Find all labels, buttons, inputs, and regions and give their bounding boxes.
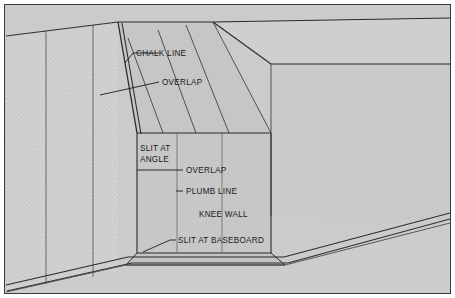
label-overlap-ceiling: OVERLAP (162, 78, 203, 87)
label-slit-at-baseboard: SLIT AT BASEBOARD (178, 236, 264, 245)
label-overlap-wall: OVERLAP (186, 166, 227, 175)
illustration-figure: CHALK LINE OVERLAP SLIT AT ANGLE OVERLAP… (0, 0, 455, 298)
label-plumb-line: PLUMB LINE (186, 187, 237, 196)
label-slit-at-angle-line1: SLIT AT (140, 144, 171, 153)
illustration-canvas: CHALK LINE OVERLAP SLIT AT ANGLE OVERLAP… (0, 0, 455, 298)
label-slit-at-angle-line2: ANGLE (140, 155, 169, 164)
stippled-left-wall (6, 22, 118, 291)
label-knee-wall: KNEE WALL (199, 210, 248, 219)
right-wall-plane (271, 64, 450, 220)
label-chalk-line: CHALK LINE (136, 49, 187, 58)
